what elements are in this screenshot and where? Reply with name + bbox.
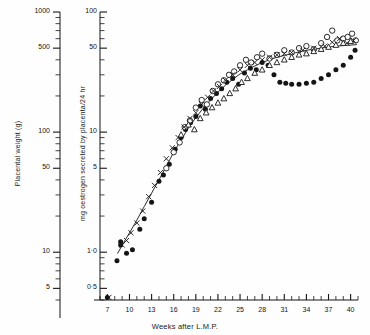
x-tick-34: 34 xyxy=(296,306,316,313)
series-cross xyxy=(106,36,356,300)
x-axis xyxy=(94,294,358,300)
x-tick-16: 16 xyxy=(164,306,184,313)
x-tick-31: 31 xyxy=(274,306,294,313)
figure-container: Placental weight (g) mg oestrogen secret… xyxy=(0,0,370,335)
x-tick-28: 28 xyxy=(252,306,272,313)
fitted-curve xyxy=(118,45,357,254)
left-axis-title: Placental weight (g) xyxy=(14,99,21,209)
y-main-tick-5: 5 xyxy=(57,163,97,170)
x-tick-7: 7 xyxy=(97,306,117,313)
x-tick-19: 19 xyxy=(186,306,206,313)
x-tick-22: 22 xyxy=(208,306,228,313)
y-left-tick-50: 50 xyxy=(10,163,50,170)
y-main-tick-100: 100 xyxy=(57,7,97,14)
y-main-tick-0·5: 0·5 xyxy=(57,283,97,290)
main-y-axis-title: mg oestrogen secreted by placenta/24 hr xyxy=(79,59,86,249)
series-filled-circle xyxy=(105,48,358,300)
x-tick-13: 13 xyxy=(142,306,162,313)
main-y-axis xyxy=(100,12,107,300)
y-main-tick-10: 10 xyxy=(57,127,97,134)
y-main-tick-50: 50 xyxy=(57,43,97,50)
y-left-tick-10: 10 xyxy=(10,247,50,254)
plot-canvas xyxy=(0,0,370,335)
y-main-tick-1·0: 1·0 xyxy=(57,247,97,254)
x-tick-25: 25 xyxy=(230,306,250,313)
x-axis-title: Weeks after L.M.P. xyxy=(152,322,218,331)
y-left-tick-5: 5 xyxy=(10,283,50,290)
y-left-tick-1000: 1000 xyxy=(10,7,50,14)
y-left-tick-500: 500 xyxy=(10,43,50,50)
x-tick-37: 37 xyxy=(319,306,339,313)
y-left-tick-100: 100 xyxy=(10,127,50,134)
x-tick-10: 10 xyxy=(119,306,139,313)
series-open-triangle xyxy=(178,38,353,137)
x-tick-40: 40 xyxy=(341,306,361,313)
